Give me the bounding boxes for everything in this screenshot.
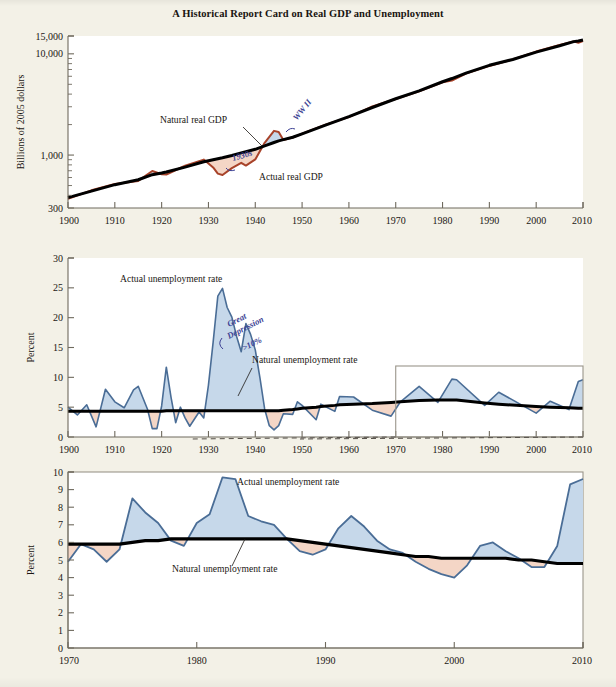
svg-text:1920: 1920 [152,444,172,455]
svg-text:2000: 2000 [526,444,546,455]
svg-text:2010: 2010 [572,655,592,666]
svg-text:1,000: 1,000 [41,150,64,161]
svg-text:5: 5 [58,555,63,566]
svg-text:0: 0 [58,432,63,443]
svg-text:1900: 1900 [59,215,79,226]
svg-text:1970: 1970 [59,655,79,666]
svg-text:1980: 1980 [433,215,453,226]
y-axis-label: Billions of 2005 dollars [15,75,26,170]
actual-unemployment-label: Actual unemployment rate [120,273,222,284]
svg-text:30: 30 [53,253,63,264]
svg-text:1950: 1950 [292,444,312,455]
svg-text:15: 15 [53,342,63,353]
svg-text:1910: 1910 [105,444,125,455]
svg-text:1930: 1930 [198,444,218,455]
panel-unemployment-long: 0510152025301900191019201930194019501960… [0,246,616,468]
svg-text:1990: 1990 [316,655,336,666]
actual-real-gdp-label: Actual real GDP [259,171,323,182]
svg-text:1940: 1940 [245,444,265,455]
svg-text:9: 9 [58,484,63,495]
svg-text:4: 4 [58,572,63,583]
unemployment-long-chart: 0510152025301900191019201930194019501960… [0,246,616,468]
real-gdp-chart: 3001,00010,00015,00019001910192019301940… [0,22,616,244]
svg-text:3: 3 [58,590,63,601]
svg-text:2010: 2010 [572,215,592,226]
svg-text:1970: 1970 [386,444,406,455]
y-axis-label: Percent [25,545,36,575]
actual-unemployment-label: Actual unemployment rate [237,476,339,487]
svg-text:1910: 1910 [105,215,125,226]
svg-text:0: 0 [58,643,63,654]
unemployment-recent-chart: 01234567891019701980199020002010PercentA… [0,462,616,687]
svg-text:1980: 1980 [433,444,453,455]
natural-unemployment-label: Natural unemployment rate [252,354,358,365]
svg-text:1920: 1920 [152,215,172,226]
svg-text:25: 25 [53,282,63,293]
svg-text:10: 10 [53,372,63,383]
svg-text:1960: 1960 [339,215,359,226]
svg-text:1960: 1960 [339,444,359,455]
panel-real-gdp: 3001,00010,00015,00019001910192019301940… [0,22,616,244]
figure-title: A Historical Report Card on Real GDP and… [0,8,616,19]
panel-unemployment-recent: 01234567891019701980199020002010PercentA… [0,462,616,687]
svg-text:1990: 1990 [479,215,499,226]
svg-text:1970: 1970 [386,215,406,226]
svg-text:7: 7 [58,519,63,530]
y-axis-label: Percent [25,332,36,362]
svg-text:2000: 2000 [526,215,546,226]
svg-text:2: 2 [58,607,63,618]
svg-text:6: 6 [58,537,63,548]
natural-unemployment-label: Natural unemployment rate [172,563,278,574]
figure-page: A Historical Report Card on Real GDP and… [0,0,616,687]
svg-text:10,000: 10,000 [36,48,64,59]
svg-text:2010: 2010 [572,444,592,455]
svg-text:1990: 1990 [479,444,499,455]
svg-text:20: 20 [53,312,63,323]
svg-text:1980: 1980 [187,655,207,666]
svg-text:1950: 1950 [292,215,312,226]
svg-text:10: 10 [53,467,63,478]
svg-text:8: 8 [58,502,63,513]
svg-text:1940: 1940 [245,215,265,226]
svg-text:15,000: 15,000 [36,31,64,42]
svg-text:2000: 2000 [444,655,464,666]
svg-text:1930: 1930 [198,215,218,226]
svg-text:1: 1 [58,625,63,636]
svg-text:1900: 1900 [59,444,79,455]
svg-text:300: 300 [48,203,63,214]
natural-real-gdp-label: Natural real GDP [160,114,227,125]
svg-text:5: 5 [58,402,63,413]
